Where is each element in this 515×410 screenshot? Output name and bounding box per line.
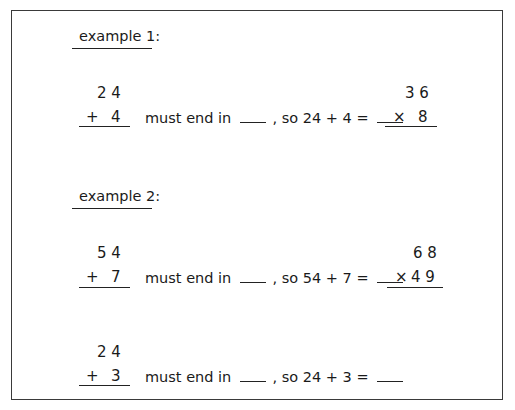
ex2-blank-ones-digit[interactable] <box>240 270 266 283</box>
ex1-factor-bottom: 8 <box>418 108 428 126</box>
ex2-times-operator: × <box>395 268 408 286</box>
ex2-sum-line <box>79 287 130 288</box>
ex1-must-end-in: must end in <box>145 110 231 126</box>
ex1-addend-bottom: 4 <box>111 108 121 126</box>
ex2-sentence: must end in , so 54 + 7 = <box>145 269 403 287</box>
ex2-must-end-in: must end in <box>145 270 231 286</box>
ex1-so-text: , so 24 + 4 = <box>273 110 369 126</box>
ex2-product-line <box>387 287 443 288</box>
ex2-addend-top: 5 4 <box>97 244 121 262</box>
ex2c-so-text: , so 24 + 3 = <box>273 369 369 385</box>
ex2c-addend-top: 2 4 <box>97 343 121 361</box>
ex2c-addend-bottom: 3 <box>111 367 121 385</box>
example-2-heading: example 2: <box>79 187 160 205</box>
ex1-factor-top: 3 6 <box>405 84 429 102</box>
ex2c-sentence: must end in , so 24 + 3 = <box>145 368 403 386</box>
ex1-times-operator: × <box>393 108 406 126</box>
ex2c-sum-line <box>79 385 130 386</box>
example-1-heading-underline <box>72 48 152 49</box>
worksheet-frame <box>11 10 503 400</box>
example-2-heading-underline <box>72 208 152 209</box>
ex2c-operator: + <box>86 367 99 385</box>
ex1-addend-top: 2 4 <box>97 84 121 102</box>
ex2-factor-bottom: 4 9 <box>411 268 435 286</box>
ex1-sum-line <box>79 126 130 127</box>
ex1-sentence: must end in , so 24 + 4 = <box>145 109 403 127</box>
ex2c-must-end-in: must end in <box>145 369 231 385</box>
ex2-addend-bottom: 7 <box>111 268 121 286</box>
ex2c-blank-answer[interactable] <box>377 369 403 382</box>
ex1-product-line <box>385 126 437 127</box>
example-1-heading: example 1: <box>79 27 160 45</box>
ex2-operator: + <box>86 268 99 286</box>
ex2c-blank-ones-digit[interactable] <box>240 369 266 382</box>
ex2-factor-top: 6 8 <box>413 244 437 262</box>
ex2-so-text: , so 54 + 7 = <box>273 270 369 286</box>
ex1-blank-ones-digit[interactable] <box>240 110 266 123</box>
ex1-operator: + <box>86 108 99 126</box>
